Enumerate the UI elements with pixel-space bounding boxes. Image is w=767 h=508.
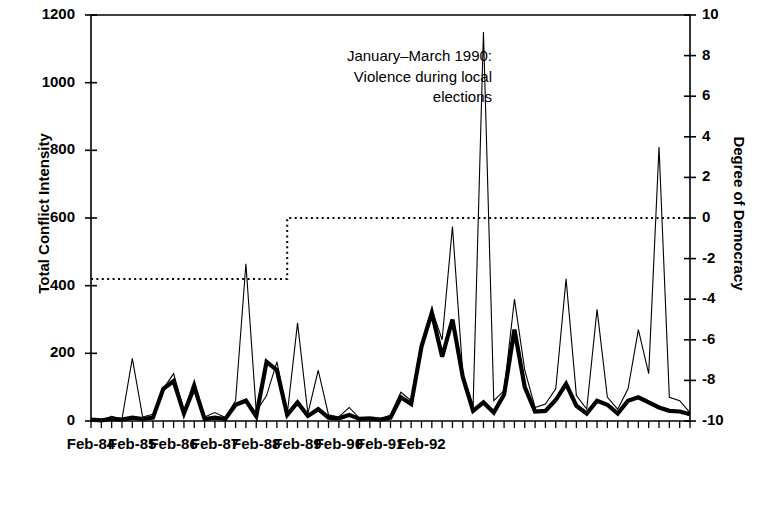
y-tick-label-right: 10 [702, 5, 748, 22]
y-tick-label-right: -8 [702, 370, 748, 387]
y-tick-label-right: -6 [702, 330, 748, 347]
y-tick-label-left: 1200 [15, 5, 75, 22]
y-tick-label-right: 4 [702, 127, 748, 144]
y-tick-label-left: 600 [15, 208, 75, 225]
y-tick-label-left: 1000 [15, 73, 75, 90]
y-tick-label-right: 0 [702, 208, 748, 225]
y-tick-label-left: 200 [15, 343, 75, 360]
y-tick-label-right: -10 [702, 411, 748, 428]
y-tick-label-right: 6 [702, 86, 748, 103]
conflict-intensity-chart: Total Conflict Intensity Degree of Democ… [0, 0, 767, 508]
axes-group [85, 15, 696, 428]
y-tick-label-right: 2 [702, 167, 748, 184]
y-tick-label-left: 0 [15, 411, 75, 428]
y-tick-label-right: -4 [702, 289, 748, 306]
series-repression [91, 313, 690, 421]
series-group [91, 32, 690, 420]
y-tick-label-left: 800 [15, 140, 75, 157]
y-tick-label-right: -2 [702, 249, 748, 266]
series-protest [91, 32, 690, 420]
x-tick-label: Feb-92 [381, 435, 461, 452]
y-tick-label-left: 400 [15, 276, 75, 293]
y-tick-label-right: 8 [702, 46, 748, 63]
chart-legend: Protest Democracy Repression [0, 466, 767, 508]
series-democracy [91, 218, 690, 279]
plot-canvas [0, 0, 767, 508]
